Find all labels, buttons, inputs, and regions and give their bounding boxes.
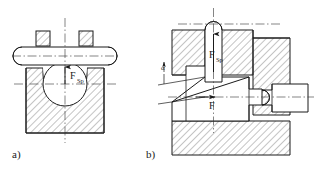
force-label-subscript: Sp: [77, 77, 84, 84]
lug-right: [79, 31, 93, 46]
lug-left: [36, 31, 50, 46]
wedge-angle-alpha: α: [161, 64, 165, 72]
technical-drawing-figure: F Sp a): [0, 0, 314, 173]
force-label-symbol: F: [70, 70, 76, 81]
caption-b: b): [146, 148, 156, 161]
force-label-vertical-symbol: F: [209, 49, 215, 60]
drawing-canvas: F Sp a): [0, 0, 314, 173]
force-label-horizontal-symbol: F: [209, 100, 215, 111]
housing-block-bottom: [172, 121, 290, 155]
caption-a: a): [12, 148, 21, 161]
force-label-vertical-subscript: Sp: [216, 56, 223, 63]
